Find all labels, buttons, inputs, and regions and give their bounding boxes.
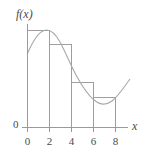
function-curve (28, 30, 131, 104)
riemann-rect-3 (72, 83, 94, 128)
x-tick-label-4: 4 (65, 136, 79, 147)
x-tick-label-8: 8 (109, 136, 123, 147)
x-axis-ticks (28, 128, 116, 132)
x-axis-label: x (132, 120, 137, 132)
origin-label: 0 (13, 119, 19, 130)
riemann-sum-figure: f(x) 0 x 0 2 4 6 8 (0, 0, 156, 155)
x-tick-label-6: 6 (87, 136, 101, 147)
x-tick-label-2: 2 (43, 136, 57, 147)
riemann-rect-2 (50, 45, 72, 128)
axes (22, 24, 128, 128)
riemann-rectangles (28, 31, 116, 128)
x-tick-label-0: 0 (21, 136, 35, 147)
riemann-rect-1 (28, 31, 50, 128)
function-label: f(x) (16, 8, 33, 20)
